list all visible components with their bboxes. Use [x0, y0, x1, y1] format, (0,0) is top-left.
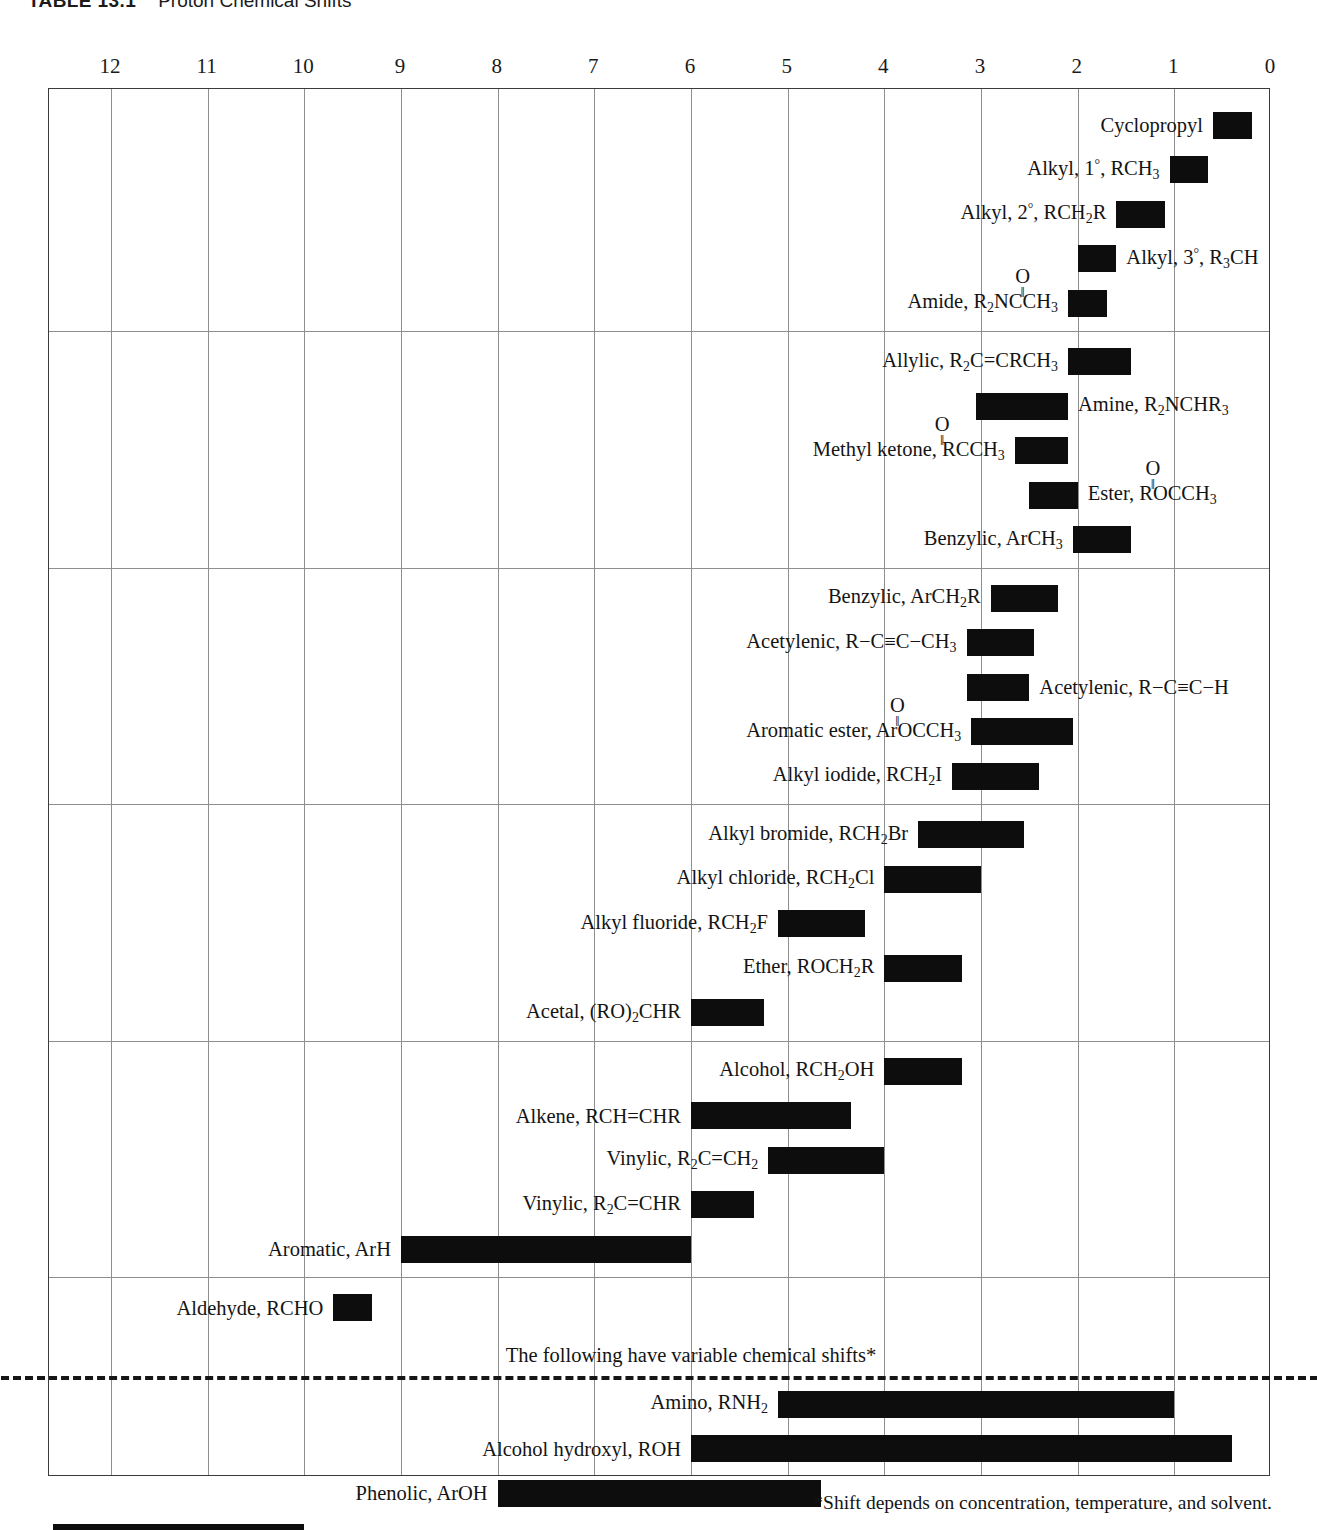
- axis-tick-6: 6: [685, 54, 696, 79]
- axis-tick-8: 8: [491, 54, 502, 79]
- group-separator-2: [49, 568, 1269, 569]
- vertical-gridline-11: [208, 89, 209, 1475]
- axis-tick-4: 4: [878, 54, 889, 79]
- x-axis-tick-labels: 1211109876543210: [0, 54, 1317, 84]
- row-label: Acetal, (RO)2CHR: [526, 1001, 681, 1025]
- row-label: Alkyl, 3°, R3CH: [1126, 247, 1258, 271]
- shift-range-bar: [333, 1294, 372, 1321]
- shift-range-bar: [778, 910, 865, 937]
- vertical-gridline-12: [111, 89, 112, 1475]
- row-label: Alcohol hydroxyl, ROH: [482, 1438, 681, 1459]
- shift-range-bar: [967, 629, 1035, 656]
- row-label: Vinylic, R2C=CHR: [522, 1193, 681, 1217]
- row-label: Alkene, RCH=CHR: [516, 1105, 681, 1126]
- row-label: Allylic, R2C=CRCH3: [882, 350, 1058, 374]
- axis-tick-10: 10: [293, 54, 314, 79]
- row-label: Aromatic ester, ArO‖OCCH3: [746, 720, 961, 744]
- row-label: Cyclopropyl: [1101, 115, 1204, 136]
- shift-range-bar: [884, 1058, 961, 1085]
- group-separator-3: [49, 804, 1269, 805]
- row-label: Alkyl, 2°, RCH2R: [960, 202, 1106, 226]
- shift-range-bar: [1068, 290, 1107, 317]
- shift-range-bar: [1015, 437, 1068, 464]
- vertical-gridline-10: [304, 89, 305, 1475]
- shift-range-bar: [967, 674, 1030, 701]
- group-separator-1: [49, 331, 1269, 332]
- vertical-gridline-1: [1174, 89, 1175, 1475]
- shift-range-bar: [778, 1391, 1174, 1418]
- axis-tick-7: 7: [588, 54, 599, 79]
- shift-range-bar: [1078, 245, 1117, 272]
- shift-range-bar: [884, 955, 961, 982]
- vertical-gridline-6: [691, 89, 692, 1475]
- row-label-text: Cyclopropyl: [1101, 114, 1204, 136]
- row-label: Benzylic, ArCH3: [924, 528, 1063, 552]
- axis-tick-1: 1: [1168, 54, 1179, 79]
- shift-range-bar: [1029, 482, 1077, 509]
- row-label: Vinylic, R2C=CH2: [606, 1148, 758, 1172]
- shift-range-bar: [53, 1524, 304, 1530]
- axis-tick-3: 3: [975, 54, 986, 79]
- axis-tick-12: 12: [100, 54, 121, 79]
- axis-tick-9: 9: [395, 54, 406, 79]
- row-label: Amino, RNH2: [651, 1392, 768, 1416]
- row-label: Phenolic, ArOH: [356, 1483, 488, 1504]
- shift-range-bar: [498, 1480, 822, 1507]
- row-label: Aromatic, ArH: [268, 1239, 391, 1260]
- shift-range-bar: [918, 821, 1024, 848]
- shift-range-bar: [991, 585, 1059, 612]
- row-label: Amine, R2NCHR3: [1078, 394, 1229, 418]
- shift-range-bar: [952, 763, 1039, 790]
- row-label: Ether, ROCH2R: [743, 956, 874, 980]
- row-label: Alkyl fluoride, RCH2F: [581, 912, 769, 936]
- variable-shift-divider: [1, 1376, 1317, 1380]
- shift-range-bar: [401, 1236, 691, 1263]
- row-label: Amide, R2NCO‖CH3: [907, 291, 1058, 315]
- axis-tick-0: 0: [1265, 54, 1276, 79]
- axis-tick-11: 11: [197, 54, 217, 79]
- shift-range-bar: [691, 1102, 851, 1129]
- chart-page: TABLE 13.1Proton Chemical Shifts 1211109…: [0, 0, 1317, 1530]
- axis-tick-2: 2: [1071, 54, 1082, 79]
- group-separator-4: [49, 1041, 1269, 1042]
- row-label: Alkyl, 1°, RCH3: [1027, 158, 1159, 182]
- shift-range-bar: [884, 866, 981, 893]
- shift-range-bar: [1213, 112, 1252, 139]
- axis-tick-5: 5: [781, 54, 792, 79]
- row-label: Alkyl chloride, RCH2Cl: [677, 867, 875, 891]
- footnote: *Shift depends on concentration, tempera…: [813, 1492, 1272, 1514]
- chart-plot-area: CyclopropylAlkyl, 1°, RCH3Alkyl, 2°, RCH…: [48, 88, 1270, 1476]
- table-number: TABLE 13.1: [28, 0, 136, 11]
- vertical-gridline-7: [594, 89, 595, 1475]
- shift-range-bar: [971, 718, 1073, 745]
- shift-range-bar: [1170, 156, 1209, 183]
- shift-range-bar: [768, 1147, 884, 1174]
- shift-range-bar: [1073, 526, 1131, 553]
- shift-range-bar: [1068, 348, 1131, 375]
- page-title: TABLE 13.1Proton Chemical Shifts: [28, 0, 351, 12]
- shift-range-bar: [1116, 201, 1164, 228]
- shift-range-bar: [691, 999, 764, 1026]
- shift-range-bar: [691, 1191, 754, 1218]
- shift-range-bar: [691, 1435, 1232, 1462]
- row-label: Ester, RO‖OCCH3: [1088, 483, 1217, 507]
- shift-range-bar: [976, 393, 1068, 420]
- row-label: Alcohol, RCH2OH: [719, 1059, 874, 1083]
- row-label: Aldehyde, RCHO: [176, 1297, 323, 1318]
- vertical-gridline-8: [498, 89, 499, 1475]
- row-label: Alkyl iodide, RCH2I: [773, 764, 942, 788]
- row-label: Methyl ketone, O‖RCCH3: [813, 439, 1005, 463]
- table-caption: Proton Chemical Shifts: [158, 0, 351, 11]
- row-label: Benzylic, ArCH2R: [828, 586, 981, 610]
- row-label: Acetylenic, R−C≡C−CH3: [746, 631, 956, 655]
- group-separator-5: [49, 1277, 1269, 1278]
- row-label: Alkyl bromide, RCH2Br: [708, 823, 908, 847]
- variable-shift-note: The following have variable chemical shi…: [506, 1344, 877, 1367]
- row-label: Acetylenic, R−C≡C−H: [1039, 677, 1229, 698]
- vertical-gridline-9: [401, 89, 402, 1475]
